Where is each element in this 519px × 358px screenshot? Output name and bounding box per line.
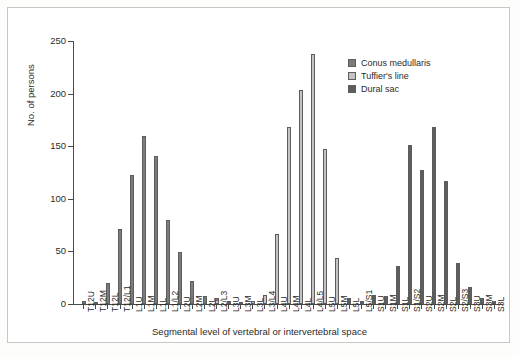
y-tick-mark bbox=[68, 94, 73, 95]
y-tick-mark bbox=[68, 146, 73, 147]
y-tick-label: 50 bbox=[55, 247, 66, 257]
x-tick-label: S3M bbox=[485, 295, 494, 312]
x-tick-mark bbox=[156, 305, 157, 309]
x-tick-label: L1M bbox=[147, 295, 156, 312]
y-tick-mark bbox=[68, 304, 73, 305]
x-tick-label: L1U bbox=[135, 296, 144, 312]
x-tick-label: L5U bbox=[328, 296, 337, 312]
x-tick-label: L2/L3 bbox=[220, 291, 229, 312]
x-tick-label: L3/L4 bbox=[268, 291, 277, 312]
x-tick-label: L3U bbox=[232, 296, 241, 312]
x-tick-mark bbox=[470, 305, 471, 309]
y-tick-label: 150 bbox=[50, 141, 66, 151]
bar bbox=[408, 145, 412, 304]
x-tick-label: L1/L2 bbox=[171, 291, 180, 312]
x-tick-label: L4U bbox=[280, 296, 289, 312]
x-tick-label: L3L bbox=[256, 298, 265, 312]
x-tick-mark bbox=[120, 305, 121, 309]
x-tick-mark bbox=[301, 305, 302, 309]
y-tick-mark bbox=[68, 41, 73, 42]
x-tick-mark bbox=[361, 305, 362, 309]
x-tick-label: L5L bbox=[352, 298, 361, 312]
x-tick-label: S1M bbox=[389, 295, 398, 312]
x-tick-mark bbox=[446, 305, 447, 309]
x-tick-mark bbox=[349, 305, 350, 309]
y-axis-title: No. of persons bbox=[25, 64, 36, 126]
figure: No. of persons 050100150200250 T12UT12MT… bbox=[0, 0, 519, 358]
x-tick-label: S2U bbox=[425, 295, 434, 312]
x-tick-label: L1L bbox=[159, 298, 168, 312]
x-tick-mark bbox=[83, 305, 84, 309]
bar bbox=[142, 136, 146, 304]
x-tick-mark bbox=[144, 305, 145, 309]
x-tick-label: T12M bbox=[99, 290, 108, 312]
legend-swatch bbox=[348, 72, 356, 80]
x-tick-label: T12L bbox=[111, 293, 120, 312]
chart-legend: Conus medullarisTuffier's lineDural sac bbox=[348, 58, 431, 97]
x-tick-label: S2L bbox=[449, 297, 458, 312]
y-axis-line bbox=[73, 41, 74, 305]
legend-item: Dural sac bbox=[348, 84, 431, 94]
y-tick-mark bbox=[68, 199, 73, 200]
legend-label: Conus medullaris bbox=[361, 59, 431, 68]
x-tick-label: T12U bbox=[87, 291, 96, 312]
bar bbox=[311, 54, 315, 304]
x-tick-label: S2/S3 bbox=[461, 289, 470, 312]
x-tick-label: S1L bbox=[401, 297, 410, 312]
y-tick-label: 200 bbox=[50, 89, 66, 99]
bar bbox=[444, 181, 448, 304]
legend-item: Tuffier's line bbox=[348, 71, 431, 81]
x-tick-mark bbox=[337, 305, 338, 309]
legend-swatch bbox=[348, 85, 356, 93]
bar bbox=[154, 156, 158, 304]
legend-item: Conus medullaris bbox=[348, 58, 431, 68]
x-tick-mark bbox=[132, 305, 133, 309]
x-tick-mark bbox=[325, 305, 326, 309]
x-tick-mark bbox=[458, 305, 459, 309]
x-tick-mark bbox=[180, 305, 181, 309]
x-tick-label: L4/L5 bbox=[316, 291, 325, 312]
y-tick-mark bbox=[68, 251, 73, 252]
legend-label: Tuffier's line bbox=[361, 72, 409, 81]
x-tick-label: L3M bbox=[244, 295, 253, 312]
bar bbox=[323, 149, 327, 304]
legend-label: Dural sac bbox=[361, 85, 399, 94]
bar bbox=[287, 127, 291, 304]
bar bbox=[432, 127, 436, 304]
plot-area: 050100150200250 T12UT12MT12LT12/L1L1UL1M… bbox=[73, 41, 503, 305]
x-tick-mark bbox=[494, 305, 495, 309]
x-tick-label: L4L bbox=[304, 298, 313, 312]
x-tick-label: L2U bbox=[183, 296, 192, 312]
x-tick-label: L5/S1 bbox=[365, 290, 374, 312]
y-tick-label: 250 bbox=[50, 36, 66, 46]
bar bbox=[299, 90, 303, 304]
x-tick-mark bbox=[313, 305, 314, 309]
figure-frame: No. of persons 050100150200250 T12UT12MT… bbox=[7, 7, 510, 343]
x-tick-mark bbox=[434, 305, 435, 309]
y-tick-label: 100 bbox=[50, 194, 66, 204]
x-tick-label: S2M bbox=[437, 295, 446, 312]
x-tick-label: S1U bbox=[377, 295, 386, 312]
x-tick-mark bbox=[192, 305, 193, 309]
x-tick-label: T12/L1 bbox=[123, 286, 132, 312]
x-tick-label: L2L bbox=[208, 298, 217, 312]
x-tick-label: S3L bbox=[497, 297, 506, 312]
x-tick-label: S1/S2 bbox=[413, 289, 422, 312]
x-tick-mark bbox=[168, 305, 169, 309]
x-tick-label: L2M bbox=[195, 295, 204, 312]
x-tick-label: L5M bbox=[340, 295, 349, 312]
y-tick-label: 0 bbox=[61, 299, 66, 309]
x-tick-mark bbox=[289, 305, 290, 309]
x-tick-mark bbox=[204, 305, 205, 309]
x-tick-mark bbox=[482, 305, 483, 309]
x-tick-mark bbox=[277, 305, 278, 309]
x-axis-title: Segmental level of vertebral or interver… bbox=[8, 326, 511, 337]
bar bbox=[420, 170, 424, 304]
legend-swatch bbox=[348, 59, 356, 67]
x-tick-label: L4M bbox=[292, 295, 301, 312]
x-tick-label: S3U bbox=[473, 295, 482, 312]
